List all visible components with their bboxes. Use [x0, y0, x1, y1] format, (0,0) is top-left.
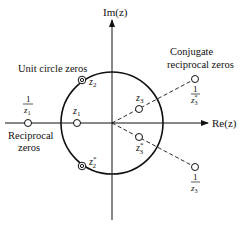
annotation-reciprocal-line2: zeros: [18, 142, 40, 153]
real-axis-label: Re(z): [212, 117, 237, 130]
zero-z2-conj-marker-outer: [78, 162, 86, 170]
zero-inv-z3-conj-numerator: 1: [193, 84, 198, 94]
annotation-conjugate-line2: reciprocal zeros: [167, 59, 234, 70]
zero-inv-z3-conj-marker: [192, 76, 199, 83]
zero-z2-conj-label: z*2: [88, 155, 97, 170]
zero-z1-marker: [74, 120, 81, 127]
zero-inv-z3-numerator: 1: [193, 172, 198, 182]
zero-inv-z3-conj-denominator: z*3: [190, 94, 198, 106]
zero-z3-conj-marker: [136, 134, 143, 141]
annotation-conjugate-line1: Conjugate: [170, 46, 213, 57]
zero-inv-z1-denominator: z1: [23, 105, 31, 116]
zero-inv-z1-marker: [25, 120, 32, 127]
zero-z1-label: z1: [72, 105, 81, 118]
zero-z2-marker-outer: [78, 76, 86, 84]
zero-inv-z3-denominator: z3: [190, 183, 198, 194]
dashed-line-lower: [112, 123, 193, 166]
zero-z2-label: z2: [88, 76, 97, 89]
annotation-reciprocal-line1: Reciprocal: [8, 130, 54, 141]
dashed-line-upper: [112, 80, 193, 123]
zero-inv-z3-marker: [192, 164, 199, 171]
zero-inv-z1-numerator: 1: [26, 94, 31, 104]
imaginary-axis-label: Im(z): [103, 6, 128, 19]
zero-z3-label: z3: [135, 92, 144, 105]
zero-z3-marker: [136, 106, 143, 113]
zero-z3-conj-label: z*3: [135, 141, 144, 156]
annotation-unit-circle-zeros: Unit circle zeros: [18, 63, 87, 74]
z-plane-diagram: Im(z) Re(z) z1 1 z1 z2 z*2 z3 z*3 1 z*3: [0, 0, 246, 227]
